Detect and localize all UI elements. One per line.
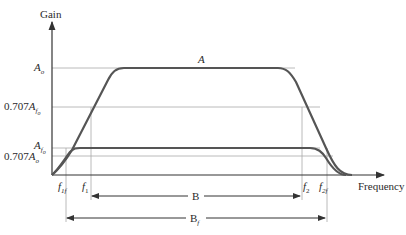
label-0707-A-o: 0.707Ao: [4, 150, 39, 165]
curve-label-A: A: [197, 53, 205, 65]
label-A-o: Ao: [33, 61, 45, 76]
gain-frequency-diagram: Gain Frequency A Ao 0.707Afo Afo 0.707Ao…: [0, 0, 406, 235]
vertical-guides: [66, 107, 327, 222]
label-f1: f1: [82, 180, 89, 195]
x-axis-label: Frequency: [358, 180, 405, 192]
bandwidth-B: B: [92, 190, 300, 202]
open-loop-gain-curve: [52, 68, 352, 175]
label-0707-A-fo: 0.707Afo: [4, 100, 40, 116]
bandwidth-B-label: B: [192, 190, 199, 202]
horizontal-guides: [52, 68, 333, 156]
y-axis-label: Gain: [40, 8, 62, 20]
bandwidth-Bf: Bf: [67, 212, 325, 227]
bandwidth-Bf-label: Bf: [190, 212, 200, 227]
label-f2: f2: [303, 180, 310, 195]
